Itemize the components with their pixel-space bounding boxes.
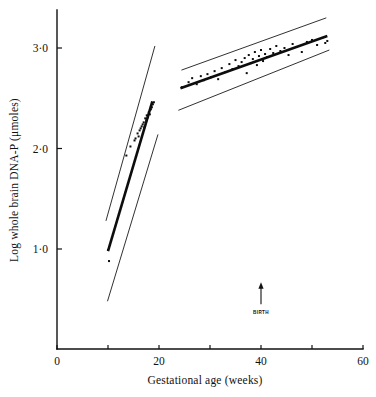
- data-point-postnatal-group-41: [321, 37, 323, 39]
- data-point-postnatal-group-38: [306, 41, 308, 43]
- data-point-postnatal-group-19: [248, 54, 250, 56]
- data-point-fetal-group-prenatal--21: [151, 106, 153, 108]
- data-point-postnatal-group-2: [191, 77, 193, 79]
- data-point-postnatal-group-28: [266, 56, 268, 58]
- data-point-fetal-group-prenatal--5: [135, 137, 137, 139]
- data-point-fetal-group-prenatal--0: [107, 249, 109, 251]
- data-point-fetal-group-prenatal--13: [143, 126, 145, 128]
- data-point-postnatal-group-12: [228, 63, 230, 65]
- data-point-postnatal-group-25: [260, 49, 262, 51]
- data-point-fetal-group-prenatal--18: [148, 111, 150, 113]
- data-point-postnatal-group-33: [283, 47, 285, 49]
- axis-labels: 02040601·02·03·0Gestational age (weeks)L…: [8, 42, 369, 387]
- birth-annotation: BIRTH: [253, 282, 269, 315]
- data-point-postnatal-group-16: [241, 61, 243, 63]
- data-point-fetal-group-prenatal--6: [137, 132, 139, 134]
- data-point-fetal-group-prenatal--12: [143, 121, 145, 123]
- data-point-postnatal-group-34: [288, 54, 290, 56]
- data-point-postnatal-group-37: [301, 51, 303, 53]
- data-point-fetal-group-prenatal--3: [129, 145, 131, 147]
- data-point-postnatal-group-39: [311, 39, 313, 41]
- data-point-fetal-group-prenatal--20: [150, 108, 152, 110]
- data-point-postnatal-group-10: [221, 67, 223, 69]
- data-point-postnatal-group-35: [292, 43, 294, 45]
- data-point-postnatal-group-23: [256, 64, 258, 66]
- data-point-postnatal-group-3: [196, 83, 198, 85]
- data-point-fetal-group-prenatal--11: [142, 123, 144, 125]
- data-point-fetal-group-prenatal--19: [149, 113, 151, 115]
- x-tick-label-0: 0: [54, 355, 60, 367]
- data-point-postnatal-group-6: [206, 73, 208, 75]
- x-tick-label-60: 60: [357, 355, 369, 367]
- data-point-postnatal-group-1: [188, 81, 190, 83]
- data-point-fetal-group-prenatal--8: [139, 129, 141, 131]
- data-point-postnatal-group-5: [203, 79, 205, 81]
- data-point-fetal-group-prenatal--16: [146, 114, 148, 116]
- data-point-postnatal-group-30: [272, 52, 274, 54]
- fetal-upper-confidence-limit: [106, 46, 155, 221]
- data-point-postnatal-group-27: [264, 53, 266, 55]
- data-point-fetal-group-prenatal--9: [140, 127, 142, 129]
- data-point-postnatal-group-29: [269, 48, 271, 50]
- data-point-fetal-group-prenatal--14: [144, 117, 146, 119]
- data-point-postnatal-group-24: [258, 55, 260, 57]
- data-point-postnatal-group-9: [217, 78, 219, 80]
- data-point-postnatal-group-13: [231, 68, 233, 70]
- birth-arrow-head: [258, 282, 263, 289]
- data-point-fetal-group-prenatal--7: [138, 135, 140, 137]
- data-point-postnatal-group-32: [279, 50, 281, 52]
- data-point-fetal-group-prenatal--4: [134, 139, 136, 141]
- x-axis-title: Gestational age (weeks): [147, 374, 262, 387]
- data-point-postnatal-group-4: [200, 75, 202, 77]
- data-points: [107, 37, 328, 262]
- axes: [57, 10, 363, 349]
- data-point-postnatal-group-22: [254, 51, 256, 53]
- data-point-postnatal-group-18: [246, 72, 248, 74]
- data-point-postnatal-group-20: [250, 62, 252, 64]
- y-tick-label-1: 1·0: [33, 243, 49, 255]
- data-point-postnatal-group-11: [224, 71, 226, 73]
- data-point-fetal-group-prenatal--10: [141, 125, 143, 127]
- data-point-postnatal-group-15: [238, 65, 240, 67]
- data-point-postnatal-group-21: [252, 58, 254, 60]
- birth-label: BIRTH: [253, 310, 269, 315]
- data-point-postnatal-group-17: [244, 57, 246, 59]
- data-point-fetal-group-prenatal--22: [152, 103, 154, 105]
- confidence-band-lines: [106, 18, 329, 301]
- regression-lines: [108, 36, 327, 251]
- y-axis-title: Log whole brain DNA-P (μmoles): [8, 98, 21, 262]
- data-point-fetal-group-prenatal--1: [108, 260, 110, 262]
- data-point-postnatal-group-42: [324, 42, 326, 44]
- y-tick-label-3: 3·0: [33, 42, 49, 54]
- x-tick-label-40: 40: [255, 355, 267, 367]
- fetal-lower-confidence-limit: [107, 134, 157, 301]
- data-point-postnatal-group-14: [235, 59, 237, 61]
- data-point-fetal-group-prenatal--2: [125, 155, 127, 157]
- data-point-postnatal-group-0: [181, 86, 183, 88]
- data-point-fetal-group-prenatal--17: [147, 116, 149, 118]
- scatter-plot-canvas: BIRTH 02040601·02·03·0Gestational age (w…: [0, 0, 376, 397]
- y-tick-label-2: 2·0: [33, 143, 49, 155]
- data-point-postnatal-group-26: [262, 60, 264, 62]
- data-point-postnatal-group-7: [210, 76, 212, 78]
- data-point-fetal-group-prenatal--23: [153, 101, 155, 103]
- data-point-postnatal-group-40: [316, 44, 318, 46]
- data-point-postnatal-group-36: [296, 46, 298, 48]
- data-point-postnatal-group-43: [326, 40, 328, 42]
- data-point-fetal-group-prenatal--15: [145, 119, 147, 121]
- data-point-postnatal-group-31: [275, 45, 277, 47]
- x-tick-label-20: 20: [153, 355, 165, 367]
- data-point-postnatal-group-8: [214, 70, 216, 72]
- chart-figure: BIRTH 02040601·02·03·0Gestational age (w…: [0, 0, 376, 397]
